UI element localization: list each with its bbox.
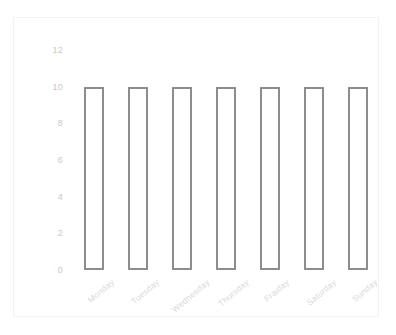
y-axis-tick-label: 10 (53, 82, 63, 92)
bar[interactable] (84, 87, 104, 270)
chart-frame: 12 10 8 6 4 2 0 Monday Tuesday Wednesday… (13, 17, 379, 317)
bar-slot: Fraiday (260, 87, 280, 270)
bar[interactable] (348, 87, 368, 270)
x-axis-tick-label: Saturday (305, 277, 339, 308)
x-axis-tick-label: Wednesday (170, 277, 212, 315)
x-axis-tick-label: Monday (86, 277, 117, 305)
y-axis-tick-label: 8 (58, 118, 63, 128)
bar-chart-plot-area: 12 10 8 6 4 2 0 Monday Tuesday Wednesday… (72, 50, 380, 270)
y-axis-tick-label: 4 (58, 192, 63, 202)
x-axis-tick-label: Thursday (216, 277, 251, 308)
bar[interactable] (304, 87, 324, 270)
y-axis-tick-label: 6 (58, 155, 63, 165)
bar-slot: Wednesday (172, 87, 192, 270)
bar[interactable] (128, 87, 148, 270)
bar[interactable] (216, 87, 236, 270)
bar-slot: Saturday (304, 87, 324, 270)
bar-slot: Thursday (216, 87, 236, 270)
y-axis-tick-label: 0 (58, 265, 63, 275)
x-axis-tick-label: Tuesday (129, 277, 161, 306)
bar-slot: Monday (84, 87, 104, 270)
bar[interactable] (172, 87, 192, 270)
bar[interactable] (260, 87, 280, 270)
y-axis-tick-label: 12 (53, 45, 63, 55)
x-axis-tick-label: Fraiday (262, 277, 291, 304)
y-axis-tick-label: 2 (58, 228, 63, 238)
bar-slot: Sunday (348, 87, 368, 270)
bar-slot: Tuesday (128, 87, 148, 270)
x-axis-tick-label: Sunday (350, 277, 379, 304)
